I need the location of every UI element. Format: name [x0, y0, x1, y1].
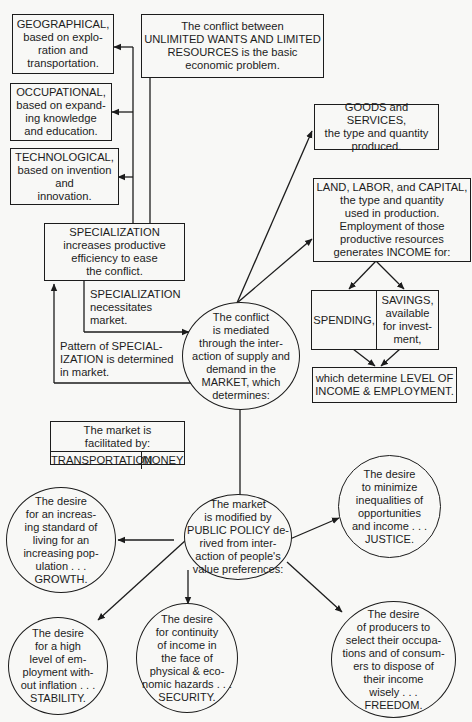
freedom-circle: The desire of producers to select their … [331, 601, 456, 718]
technological-text: TECHNOLOGICAL, based on invention and in… [15, 151, 114, 203]
freedom-text: The desire of producers to select their … [342, 608, 444, 712]
public-policy-circle: The market is modified by PUBLIC POLICY … [184, 494, 292, 580]
spending-cell: SPENDING, [312, 291, 377, 349]
growth-text: The desire for an increas- ing standard … [23, 495, 98, 586]
security-circle: The desire for continuity of income in t… [136, 603, 238, 713]
specialization-text: SPECIALIZATION increases productive effi… [63, 226, 166, 278]
geographical-text: GEOGRAPHICAL, based on explo- ration and… [17, 18, 110, 70]
geographical-box: GEOGRAPHICAL, based on explo- ration and… [12, 14, 114, 74]
goods-services-box: GOODS and SERVICES, the type and quantit… [314, 104, 439, 150]
public-policy-text: The market is modified by PUBLIC POLICY … [187, 498, 289, 576]
specialization-necessitates-label: SPECIALIZATION necessitates market. [90, 288, 181, 327]
stability-circle: The desire for a high level of em- ploym… [8, 617, 108, 715]
technological-box: TECHNOLOGICAL, based on invention and in… [10, 148, 119, 205]
core-problem-box: The conflict between UNLIMITED WANTS AND… [141, 14, 324, 78]
pattern-of-specialization-label: Pattern of SPECIAL- IZATION is determine… [60, 340, 174, 379]
goods-services-text: GOODS and SERVICES, the type and quantit… [315, 101, 438, 153]
stability-text: The desire for a high level of em- ploym… [21, 627, 96, 705]
market-text: The conflict is mediated through the int… [192, 311, 290, 402]
specialization-box: SPECIALIZATION increases productive effi… [44, 223, 185, 281]
occupational-box: OCCUPATIONAL, based on expand- ing knowl… [10, 83, 112, 141]
core-problem-text: The conflict between UNLIMITED WANTS AND… [144, 20, 321, 72]
justice-circle: The desire to minimize inequalities of o… [338, 455, 441, 558]
income-employment-text: which determine LEVEL OF INCOME & EMPLOY… [315, 372, 454, 398]
facilitation-items: TRANSPORTATION MONEY [51, 452, 184, 469]
facilitation-box: The market is facilitated by: TRANSPORTA… [50, 421, 185, 465]
savings-cell: SAVINGS, available for invest- ment, [377, 291, 438, 349]
money-item: MONEY [142, 452, 184, 469]
transportation-item: TRANSPORTATION [51, 452, 142, 469]
spending-savings-box: SPENDING, SAVINGS, available for invest-… [311, 290, 439, 350]
land-labor-capital-text: LAND, LABOR, and CAPITAL, the type and q… [317, 181, 468, 259]
market-circle: The conflict is mediated through the int… [182, 302, 300, 410]
growth-circle: The desire for an increas- ing standard … [6, 487, 116, 593]
land-labor-capital-box: LAND, LABOR, and CAPITAL, the type and q… [313, 178, 471, 262]
occupational-text: OCCUPATIONAL, based on expand- ing knowl… [16, 86, 106, 138]
justice-text: The desire to minimize inequalities of o… [352, 468, 427, 546]
facilitation-header: The market is facilitated by: [51, 422, 184, 452]
income-employment-box: which determine LEVEL OF INCOME & EMPLOY… [312, 367, 457, 403]
security-text: The desire for continuity of income in t… [142, 613, 232, 704]
